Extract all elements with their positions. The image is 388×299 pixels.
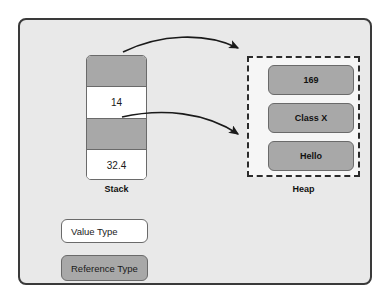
heap-container: 169 Class X Hello xyxy=(247,56,360,177)
stack-cell-3: 32.4 xyxy=(87,150,146,180)
stack-cell-3-value: 32.4 xyxy=(107,160,126,171)
stack-container: 14 32.4 xyxy=(86,55,147,180)
legend-reference-type: Reference Type xyxy=(61,255,148,281)
diagram-panel: 14 32.4 Stack 169 Class X Hello Heap xyxy=(18,18,372,285)
stack-cell-1-value: 14 xyxy=(111,97,122,108)
heap-box-class-x: Class X xyxy=(268,103,354,133)
stack-cell-0 xyxy=(87,56,146,87)
heap-box-hello-value: Hello xyxy=(300,151,322,161)
heap-box-class-x-value: Class X xyxy=(295,113,328,123)
heap-box-169: 169 xyxy=(268,65,354,95)
heap-box-hello: Hello xyxy=(268,141,354,171)
legend-value-type: Value Type xyxy=(61,219,148,243)
stack-cell-2 xyxy=(87,119,146,150)
stack-label: Stack xyxy=(76,184,157,194)
legend-value-type-label: Value Type xyxy=(71,226,118,237)
diagram-canvas: 14 32.4 Stack 169 Class X Hello Heap xyxy=(0,0,388,299)
heap-label: Heap xyxy=(263,184,344,194)
legend-reference-type-label: Reference Type xyxy=(71,263,138,274)
heap-box-169-value: 169 xyxy=(303,75,318,85)
stack-cell-1: 14 xyxy=(87,87,146,118)
